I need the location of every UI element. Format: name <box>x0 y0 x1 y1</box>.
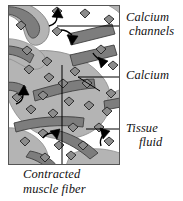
label-contracted-muscle-fiber: Contracted muscle fiber <box>23 167 86 197</box>
label-calcium: Calcium <box>126 69 169 83</box>
label-tissue-fluid-line1: Tissue <box>126 122 162 136</box>
figure-page: Calcium channels Calcium Tissue fluid Co… <box>0 0 183 201</box>
label-calcium-channels-line2: channels <box>126 25 174 39</box>
label-contracted-fiber-line2: muscle fiber <box>23 182 86 197</box>
muscle-fiber-illustration <box>8 5 120 165</box>
illustration-body <box>8 5 120 165</box>
label-calcium-channels: Calcium channels <box>126 11 174 38</box>
label-tissue-fluid-line2: fluid <box>126 136 162 150</box>
label-contracted-fiber-line1: Contracted <box>23 167 86 182</box>
label-calcium-channels-line1: Calcium <box>126 11 174 25</box>
label-tissue-fluid: Tissue fluid <box>126 122 162 149</box>
label-calcium-line1: Calcium <box>126 69 169 83</box>
